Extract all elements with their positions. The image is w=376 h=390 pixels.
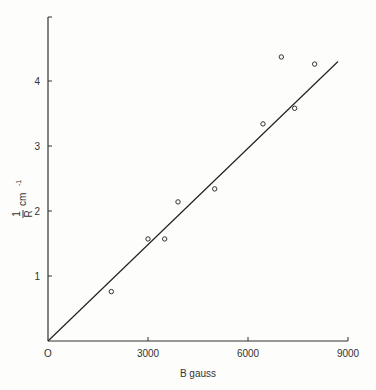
svg-text:9000: 9000 bbox=[337, 348, 360, 359]
svg-text:O: O bbox=[44, 348, 52, 359]
y-axis-label: 1 R cm -1 bbox=[11, 180, 34, 218]
data-point bbox=[162, 237, 166, 241]
svg-text:3: 3 bbox=[34, 141, 40, 152]
data-point bbox=[109, 289, 113, 293]
data-point bbox=[312, 62, 316, 66]
axes bbox=[48, 17, 348, 341]
svg-text:3000: 3000 bbox=[137, 348, 160, 359]
tick-labels: O3000600090001234 bbox=[34, 76, 359, 359]
data-point bbox=[261, 122, 265, 126]
x-axis-label: B gauss bbox=[180, 368, 216, 379]
svg-text:B gauss: B gauss bbox=[180, 368, 216, 379]
chart: O3000600090001234 B gauss 1 R cm -1 bbox=[0, 0, 376, 390]
svg-text:1: 1 bbox=[11, 211, 22, 217]
svg-text:4: 4 bbox=[34, 76, 40, 87]
data-point bbox=[146, 237, 150, 241]
fit-line bbox=[48, 62, 338, 342]
svg-text:2: 2 bbox=[34, 206, 40, 217]
svg-text:R: R bbox=[23, 210, 34, 217]
data-point bbox=[279, 55, 283, 59]
data-points bbox=[109, 55, 317, 294]
svg-text:1: 1 bbox=[34, 271, 40, 282]
data-point bbox=[176, 200, 180, 204]
svg-text:-1: -1 bbox=[15, 180, 22, 186]
data-point bbox=[292, 106, 296, 110]
svg-text:6000: 6000 bbox=[237, 348, 260, 359]
svg-text:cm: cm bbox=[17, 193, 28, 206]
data-point bbox=[212, 187, 216, 191]
